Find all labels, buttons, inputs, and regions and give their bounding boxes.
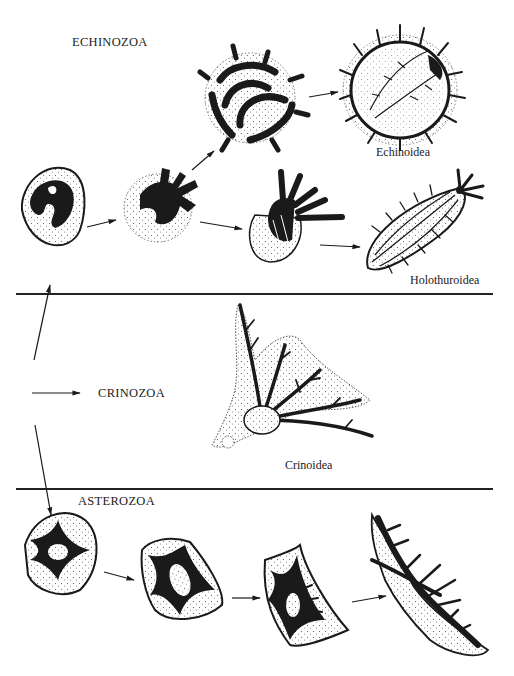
crinoidea-illustration [212,305,372,448]
asterozoa-stage-2 [142,539,223,619]
asterozoa-stage-3 [265,545,348,646]
arrow-to-holothuroidea [320,245,360,247]
echinozoa-early-stage [124,168,198,242]
arrow-to-holothurian-stage [200,222,242,229]
arrow-to-echinoid-stage [192,151,214,170]
arrow-asterozoa-stage-2 [104,572,134,580]
holothurian-intermediate-stage [250,172,342,262]
arrow-to-asterozoa [35,425,51,515]
asterozoa-adult-stage [372,515,488,655]
arrow-to-echinoidea [309,92,338,97]
echinoid-intermediate-stage [200,46,308,150]
ancestral-form [22,168,85,246]
arrow-ancestor-to-echinozoa-stage [87,220,116,227]
phylogeny-illustration [0,0,514,676]
asterozoa-early-stage [25,513,96,594]
arrow-asterozoa-stage-4 [352,596,386,602]
echinoidea-illustration [340,25,465,150]
arrow-up-to-ancestor [34,285,50,360]
holothuroidea-illustration [367,170,483,273]
